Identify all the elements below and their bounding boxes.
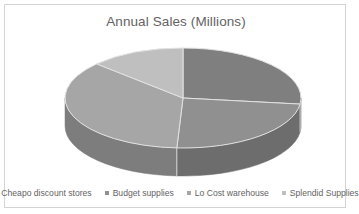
page-title: Annual Sales (Millions) [5,14,347,29]
legend-swatch-icon [187,191,191,195]
pie-top-faces [65,48,301,148]
legend-item-label: Splendid Supplies [290,188,359,198]
legend-item-lo-cost-warehouse[interactable]: Lo Cost warehouse [187,188,269,198]
pie-chart-svg [5,31,347,181]
legend-item-label: Lo Cost warehouse [195,188,269,198]
legend-item-budget-supplies[interactable]: Budget supplies [105,188,174,198]
legend-item-cheapo-discount-stores[interactable]: Cheapo discount stores [0,188,92,198]
chart-frame: Annual Sales (Millions) Cheapo discount … [4,4,346,208]
legend-item-label: Budget supplies [113,188,174,198]
chart-legend: Cheapo discount stores Budget supplies L… [5,188,347,198]
pie-chart-plot-area [5,31,347,181]
pie-slice[interactable] [183,48,301,104]
legend-swatch-icon [105,191,109,195]
legend-swatch-icon [282,191,286,195]
legend-item-label: Cheapo discount stores [1,188,91,198]
legend-item-splendid-supplies[interactable]: Splendid Supplies [282,188,359,198]
